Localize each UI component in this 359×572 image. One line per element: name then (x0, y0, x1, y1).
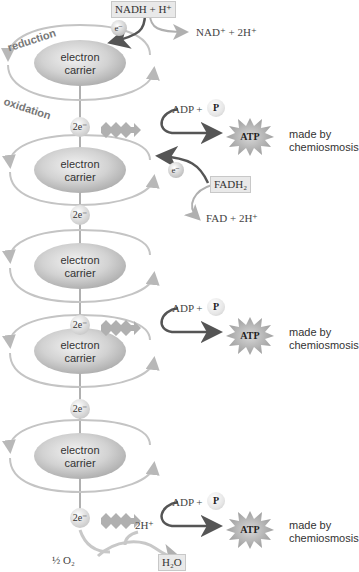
carrier-4-label: electron carrier (40, 339, 120, 365)
fadh2-electron-icon: e⁻ (168, 162, 184, 178)
electron-icon: e⁻ (111, 20, 127, 36)
note-line2: chemiosmosis (289, 532, 359, 545)
phosphate-icon-1: P (207, 99, 225, 117)
carrier-2-label: electron carrier (40, 158, 120, 184)
carrier-label-line1: electron (40, 339, 120, 352)
note-line2: chemiosmosis (289, 141, 359, 154)
water-label: H₂O (158, 554, 186, 571)
protons-label: 2H⁺ (135, 519, 154, 532)
fadh2-label: FADH₂ (210, 176, 251, 193)
chemiosmosis-note-1: made by chemiosmosis (289, 128, 359, 154)
note-line1: made by (289, 519, 359, 532)
carrier-label-line1: electron (40, 444, 120, 457)
atp-label-3: ATP (230, 524, 270, 535)
nadh-label: NADH + H⁺ (111, 1, 176, 18)
carrier-label-line1: electron (40, 158, 120, 171)
fadh2-arrows (160, 156, 212, 218)
phosphate-icon-3: P (207, 492, 225, 510)
adp-label-1: ADP + (172, 103, 203, 115)
electron-pair-3: 2e⁻ (70, 315, 90, 335)
nad-output-label: NAD⁺ + 2H⁺ (196, 26, 257, 39)
chemiosmosis-note-3: made by chemiosmosis (289, 519, 359, 545)
phosphate-icon-2: P (207, 298, 225, 316)
carrier-label-line2: carrier (40, 352, 120, 365)
fad-output-label: FAD + 2H⁺ (206, 212, 258, 225)
adp-label-2: ADP + (172, 302, 203, 314)
carrier-3-label: electron carrier (40, 254, 120, 280)
electron-pair-5: 2e⁻ (70, 508, 90, 528)
zigzag-energy-arrow-2 (101, 320, 141, 336)
atp-label-1: ATP (230, 131, 270, 142)
adp-label-3: ADP + (172, 496, 203, 508)
note-line1: made by (289, 128, 359, 141)
note-line1: made by (289, 326, 359, 339)
oxygen-label: ½ O₂ (52, 554, 75, 566)
atp-label-2: ATP (230, 330, 270, 341)
zigzag-energy-arrow-1 (101, 122, 141, 138)
diagram-canvas (0, 0, 359, 572)
electron-pair-1: 2e⁻ (70, 117, 90, 137)
carrier-label-line1: electron (40, 51, 120, 64)
carrier-5-label: electron carrier (40, 444, 120, 470)
note-line2: chemiosmosis (289, 339, 359, 352)
electron-pair-2: 2e⁻ (70, 205, 90, 225)
carrier-label-line2: carrier (40, 457, 120, 470)
carrier-label-line2: carrier (40, 267, 120, 280)
carrier-label-line2: carrier (40, 171, 120, 184)
carrier-label-line2: carrier (40, 64, 120, 77)
carrier-1-label: electron carrier (40, 51, 120, 77)
electron-pair-4: 2e⁻ (70, 399, 90, 419)
carrier-label-line1: electron (40, 254, 120, 267)
chemiosmosis-note-2: made by chemiosmosis (289, 326, 359, 352)
